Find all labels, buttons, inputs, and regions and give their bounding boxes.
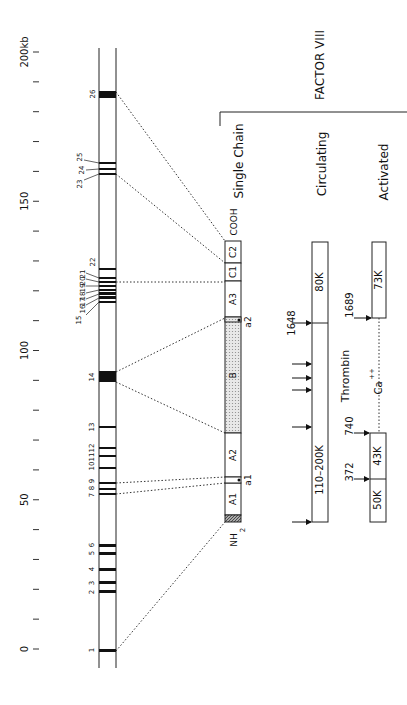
calcium-superscript: ++ xyxy=(368,368,376,380)
exon-20 xyxy=(99,281,116,283)
exon-13 xyxy=(99,426,116,428)
exon-leader-line xyxy=(86,169,99,170)
exon-leader-line xyxy=(84,174,99,180)
nh2-subscript: 2 xyxy=(239,528,247,532)
exon-label-12: 12 xyxy=(88,444,96,453)
axis-tick-label: 150 xyxy=(19,192,30,211)
exon-label-3: 3 xyxy=(88,581,96,585)
domain-label-C2: C2 xyxy=(228,246,238,258)
exon-label-25: 25 xyxy=(76,153,84,162)
exon-label-26: 26 xyxy=(89,89,97,98)
domain-label-C1: C1 xyxy=(228,266,238,278)
domain-label-A3: A3 xyxy=(228,293,238,305)
exon-16 xyxy=(99,296,116,299)
exon-label-10: 10 xyxy=(88,462,96,471)
exon-label-21: 21 xyxy=(79,270,87,279)
exon-24 xyxy=(99,168,116,170)
exon-22 xyxy=(99,268,116,270)
exon-leader-line xyxy=(86,294,99,299)
exon-1 xyxy=(99,649,116,652)
axis-tick-label: 100 xyxy=(19,341,30,360)
exon-6 xyxy=(99,544,116,547)
factor-viii-diagram: 050100150200kb C2C1A3BA2A1a1a2COOHNH2 xyxy=(0,0,407,705)
exon-leader-line xyxy=(86,273,99,278)
light-chain-label: 80K xyxy=(314,272,325,292)
exon-8 xyxy=(99,488,116,490)
heading-single-chain: Single Chain xyxy=(232,124,246,199)
exon-leader-line xyxy=(84,160,99,163)
a2-label: a2 xyxy=(243,316,253,327)
bracket xyxy=(220,112,407,126)
exon-label-23: 23 xyxy=(76,180,84,189)
chain-43k-label: 43K xyxy=(372,446,383,466)
exon-label-9: 9 xyxy=(88,479,96,483)
chain-73k-label: 73K xyxy=(373,270,384,290)
exon-25 xyxy=(99,162,116,164)
exon-3 xyxy=(99,581,116,584)
a1-marker-icon xyxy=(238,479,241,482)
axis-tick-label: 50 xyxy=(19,493,30,506)
exon-label-4: 4 xyxy=(88,566,96,571)
exon-17 xyxy=(99,292,116,295)
exon-label-22: 22 xyxy=(89,258,97,267)
exon-label-7: 7 xyxy=(88,493,96,497)
domain-label-A1: A1 xyxy=(228,493,238,505)
exon-9 xyxy=(99,482,116,484)
chain-50k-label: 50K xyxy=(372,490,383,510)
exon-label-24: 24 xyxy=(78,165,86,174)
gene-map xyxy=(99,48,116,668)
heading-activated: Activated xyxy=(377,144,391,201)
exon-12 xyxy=(99,447,116,449)
exon-21 xyxy=(99,277,116,279)
exon-label-13: 13 xyxy=(88,423,96,432)
calcium-label: Ca xyxy=(373,381,384,394)
exon-domain-connectors xyxy=(116,92,225,651)
exon-label-5: 5 xyxy=(88,551,96,555)
a2-marker-icon xyxy=(238,319,241,322)
exon-2 xyxy=(99,590,116,593)
exon-leader-line xyxy=(86,279,99,282)
exon-label-1: 1 xyxy=(88,648,96,652)
exon-10 xyxy=(99,467,116,469)
exon-18 xyxy=(99,289,116,291)
heading-circulating: Circulating xyxy=(315,132,329,197)
thrombin-label: Thrombin xyxy=(339,350,352,403)
site-740-label: 740 xyxy=(344,416,355,435)
exon-label-8: 8 xyxy=(88,486,96,490)
exon-leader-line xyxy=(86,290,99,293)
exon-5 xyxy=(99,552,116,555)
exon-4 xyxy=(99,568,116,571)
exon-label-14: 14 xyxy=(88,372,96,381)
domain-label-B: B xyxy=(228,372,238,378)
nh2-label: NH xyxy=(229,533,239,547)
site-1689-label: 1689 xyxy=(344,292,355,317)
axis-tick-label: 200kb xyxy=(19,36,30,67)
exon-label-6: 6 xyxy=(88,542,96,547)
domain-label-A2: A2 xyxy=(228,449,238,461)
exon-23 xyxy=(99,173,116,175)
kb-axis: 050100150200kb xyxy=(19,36,39,652)
exon-14 xyxy=(99,371,116,382)
exon-26 xyxy=(99,91,116,98)
exon-label-2: 2 xyxy=(88,590,96,594)
site-372-label: 372 xyxy=(344,462,355,481)
axis-tick-label: 0 xyxy=(19,646,30,652)
figure-title: FACTOR VIII xyxy=(313,30,327,100)
heavy-chain-label: 110–200K xyxy=(314,445,325,495)
exon-19 xyxy=(99,285,116,287)
exon-7 xyxy=(99,493,116,495)
exon-label-11: 11 xyxy=(88,453,96,462)
exon-15 xyxy=(99,301,116,303)
a1-label: a1 xyxy=(243,474,253,485)
exon-11 xyxy=(99,455,116,457)
exon-label-15: 15 xyxy=(75,316,83,325)
cooh-label: COOH xyxy=(229,208,239,235)
single-chain-protein: C2C1A3BA2A1a1a2COOHNH2 xyxy=(225,208,253,546)
site-1648-label: 1648 xyxy=(286,310,297,335)
nh2-cap xyxy=(225,515,241,522)
